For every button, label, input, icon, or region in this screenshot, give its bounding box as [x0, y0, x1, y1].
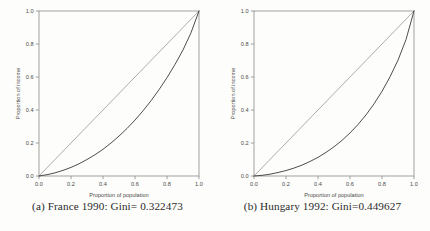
equality-line	[254, 11, 414, 176]
panel-hungary: 0.00.20.40.60.81.00.00.20.40.60.81.0Prop…	[215, 0, 430, 231]
x-tick-label: 0.0	[250, 181, 258, 187]
equality-line	[39, 11, 199, 176]
y-tick-label: 0.6	[26, 74, 34, 80]
plot-area-france: 0.00.20.40.60.81.00.00.20.40.60.81.0Prop…	[0, 0, 215, 231]
caption-france: (a) France 1990: Gini= 0.322473	[0, 200, 215, 212]
panel-france: 0.00.20.40.60.81.00.00.20.40.60.81.0Prop…	[0, 0, 215, 231]
x-tick-label: 0.2	[67, 181, 75, 187]
y-tick-label: 0.8	[26, 41, 34, 47]
plot-area-hungary: 0.00.20.40.60.81.00.00.20.40.60.81.0Prop…	[215, 0, 430, 231]
y-axis-title: Proportion of income	[230, 68, 236, 120]
y-tick-label: 0.2	[26, 140, 34, 146]
y-tick-label: 0.4	[26, 107, 34, 113]
x-tick-label: 1.0	[410, 181, 418, 187]
x-tick-label: 1.0	[195, 181, 203, 187]
x-tick-label: 0.8	[163, 181, 171, 187]
x-tick-label: 0.6	[131, 181, 139, 187]
y-tick-label: 0.0	[241, 173, 249, 179]
x-axis-title: Proportion of population	[304, 192, 363, 198]
y-tick-label: 0.0	[26, 173, 34, 179]
y-tick-label: 1.0	[26, 8, 34, 14]
y-tick-label: 0.8	[241, 41, 249, 47]
x-tick-label: 0.8	[378, 181, 386, 187]
x-tick-label: 0.4	[314, 181, 322, 187]
y-axis-title: Proportion of income	[15, 68, 21, 120]
x-tick-label: 0.2	[282, 181, 290, 187]
x-axis-title: Proportion of population	[89, 192, 148, 198]
x-tick-label: 0.0	[35, 181, 43, 187]
lorenz-curve-figure: 0.00.20.40.60.81.00.00.20.40.60.81.0Prop…	[0, 0, 430, 231]
caption-hungary: (b) Hungary 1992: Gini=0.449627	[215, 200, 430, 212]
y-tick-label: 0.6	[241, 74, 249, 80]
y-tick-label: 0.2	[241, 140, 249, 146]
x-tick-label: 0.4	[99, 181, 107, 187]
y-tick-label: 1.0	[241, 8, 249, 14]
x-tick-label: 0.6	[346, 181, 354, 187]
y-tick-label: 0.4	[241, 107, 249, 113]
